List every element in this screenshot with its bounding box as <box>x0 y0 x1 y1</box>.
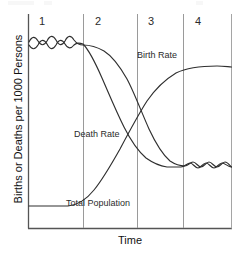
death-rate-label: Death Rate <box>74 129 120 139</box>
x-axis-title: Time <box>28 234 232 247</box>
stage-label-4: 4 <box>191 15 205 28</box>
chart-plot-area <box>0 0 247 254</box>
stage-label-1: 1 <box>35 15 49 28</box>
birth-rate-curve <box>29 36 232 167</box>
axis-frame <box>28 14 232 229</box>
total-population-label: Total Population <box>66 198 130 208</box>
total-population-curve <box>29 66 232 206</box>
death-rate-curve <box>29 40 232 168</box>
y-axis-title: Births or Deaths per 1000 Persons <box>12 24 24 214</box>
stage-label-3: 3 <box>144 15 158 28</box>
birth-rate-label: Birth Rate <box>137 50 177 60</box>
stage-label-2: 2 <box>91 15 105 28</box>
demographic-transition-chart: 1 2 3 4 Birth Rate Death Rate Total Popu… <box>0 0 247 254</box>
stage-divider-lines <box>84 14 184 228</box>
